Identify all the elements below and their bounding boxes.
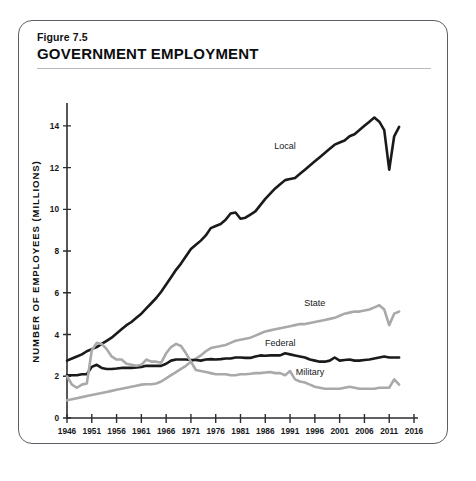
series-line-military [67,343,399,389]
y-tick-label: 10 [50,204,60,214]
y-tick-label: 14 [50,121,60,131]
x-axis: 1946195119561961196619711976198119861991… [58,414,424,436]
x-tick-label: 1976 [206,426,225,436]
x-tick-label: 1946 [58,426,77,436]
series-label-federal: Federal [265,338,296,348]
y-tick-label: 0 [54,413,59,423]
x-tick-label: 1971 [182,426,201,436]
figure-card: Figure 7.5 GOVERNMENT EMPLOYMENT 0246810… [18,20,448,444]
x-tick-label: 2016 [405,426,424,436]
series-label-local: Local [274,141,296,151]
x-tick-label: 1981 [231,426,250,436]
x-tick-label: 2011 [380,426,398,436]
chart-plot-area: 02468101214 1946195119561961196619711976… [19,21,448,444]
series-line-federal [67,353,399,375]
y-axis-title: NUMBER OF EMPLOYEES (MILLIONS) [30,160,41,362]
y-tick-label: 2 [54,371,59,381]
x-tick-label: 1966 [157,426,176,436]
y-tick-label: 12 [50,163,60,173]
x-tick-label: 1961 [132,426,151,436]
x-tick-label: 1956 [107,426,126,436]
x-tick-label: 2001 [330,426,349,436]
y-tick-label: 6 [54,288,59,298]
x-tick-label: 1951 [83,426,102,436]
y-tick-label: 4 [54,330,59,340]
y-tick-label: 8 [54,246,59,256]
chart-series-group [67,118,399,401]
line-chart: 02468101214 1946195119561961196619711976… [19,21,448,444]
series-line-local [67,118,399,361]
x-tick-label: 1991 [281,426,300,436]
x-tick-label: 1996 [306,426,325,436]
series-label-military: Military [296,367,325,377]
x-tick-label: 1986 [256,426,275,436]
x-tick-label: 2006 [355,426,374,436]
series-label-state: State [304,298,325,308]
